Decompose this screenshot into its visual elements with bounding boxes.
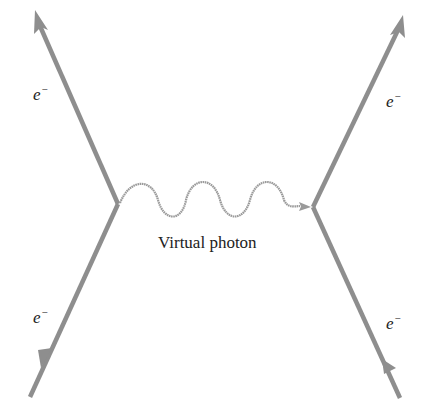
label-base: e: [386, 92, 394, 111]
label-superscript: −: [395, 312, 401, 324]
electron-line-top-left: [34, 10, 118, 204]
feynman-diagram: e− e− e− e− Virtual photon: [0, 0, 423, 413]
label-electron-top-right: e−: [386, 90, 401, 112]
label-base: e: [33, 85, 41, 104]
label-electron-bottom-left: e−: [33, 306, 48, 328]
label-virtual-photon: Virtual photon: [158, 233, 257, 253]
label-electron-bottom-right: e−: [386, 312, 401, 334]
electron-line-bottom-left: [30, 204, 118, 397]
label-superscript: −: [395, 90, 401, 102]
label-superscript: −: [42, 83, 48, 95]
arrowhead-icon: [299, 202, 311, 211]
virtual-photon-line: [120, 182, 311, 217]
label-electron-top-left: e−: [33, 83, 48, 105]
diagram-graphics: [0, 0, 423, 413]
label-base: e: [33, 308, 41, 327]
label-base: e: [386, 314, 394, 333]
electron-line-bottom-right: [313, 207, 400, 398]
label-superscript: −: [42, 306, 48, 318]
